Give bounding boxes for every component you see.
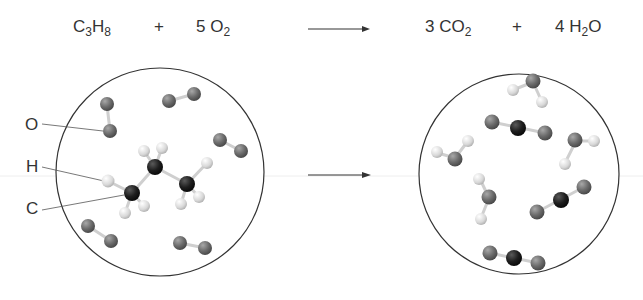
- products-circle: [419, 74, 619, 274]
- top-arrow-icon: [308, 26, 370, 32]
- reaction-diagram: [0, 0, 643, 300]
- middle-arrow-icon: [308, 172, 371, 178]
